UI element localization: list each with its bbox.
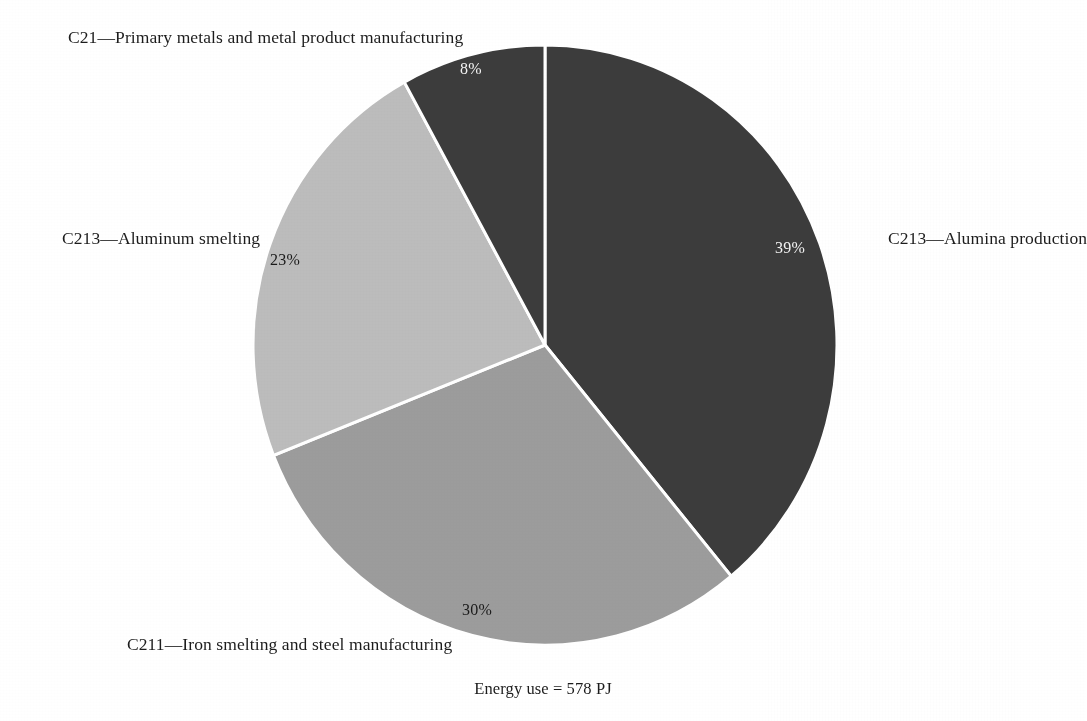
pie-value-aluminum-smelting: 23% — [270, 251, 300, 269]
pie-label-iron-steel: C211—Iron smelting and steel manufacturi… — [127, 634, 452, 655]
pie-label-alumina-production: C213—Alumina production — [888, 228, 1087, 249]
pie-value-alumina-production: 39% — [775, 239, 805, 257]
pie-value-iron-steel: 30% — [462, 601, 492, 619]
pie-label-aluminum-smelting: C213—Aluminum smelting — [62, 228, 260, 249]
pie-label-primary-metals: C21—Primary metals and metal product man… — [68, 27, 463, 48]
pie-value-primary-metals: 8% — [460, 60, 482, 78]
energy-use-footnote: Energy use = 578 PJ — [0, 679, 1086, 699]
pie-slices — [253, 45, 837, 645]
